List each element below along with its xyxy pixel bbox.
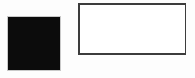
canvas: [0, 0, 195, 78]
filled-black-square: [8, 17, 60, 70]
outlined-white-rectangle: [78, 3, 186, 55]
